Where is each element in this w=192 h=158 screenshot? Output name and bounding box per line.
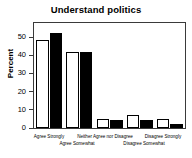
- y-tick-mark-0: [29, 128, 33, 129]
- bar-agree-somewhat-white: [66, 52, 79, 128]
- y-tick-10: 10: [0, 105, 33, 115]
- y-tick-30: 30: [0, 68, 33, 78]
- chart-page: Understand politics Percent 0 10 20 30 4…: [0, 0, 192, 158]
- x-label-agree-somewhat: Agree Somewhat: [42, 141, 112, 147]
- bar-neither-agree-nor-disagree-white: [97, 119, 110, 128]
- y-tick-label-50: 50: [18, 32, 26, 42]
- y-tick-20: 20: [0, 87, 33, 97]
- bar-disagree-somewhat-black: [140, 120, 153, 128]
- bar-neither-agree-nor-disagree-black: [110, 120, 123, 128]
- x-label-disagree-somewhat: Disagree Somewhat: [104, 141, 184, 147]
- y-tick-mark-10: [29, 109, 33, 110]
- y-tick-label-30: 30: [18, 68, 26, 78]
- y-tick-mark-20: [29, 91, 33, 92]
- y-tick-label-10: 10: [18, 105, 26, 115]
- bar-agree-strongly-white: [36, 40, 49, 128]
- y-tick-mark-50: [29, 37, 33, 38]
- y-tick-50: 50: [0, 32, 33, 42]
- y-tick-40: 40: [0, 50, 33, 60]
- chart-title: Understand politics: [0, 4, 192, 15]
- x-label-disagree-strongly: Disagree Strongly: [123, 134, 192, 140]
- bars-layer: [34, 23, 185, 128]
- bar-agree-somewhat-black: [80, 52, 93, 128]
- y-tick-mark-30: [29, 73, 33, 74]
- bar-disagree-strongly-black: [170, 124, 183, 128]
- bar-agree-strongly-black: [50, 33, 63, 128]
- y-tick-mark-40: [29, 55, 33, 56]
- bar-disagree-strongly-white: [157, 119, 170, 128]
- y-tick-label-40: 40: [18, 50, 26, 60]
- x-axis-labels: Agree Strongly Agree Somewhat Neither Ag…: [0, 131, 192, 158]
- bar-disagree-somewhat-white: [127, 115, 140, 128]
- y-tick-label-20: 20: [18, 87, 26, 97]
